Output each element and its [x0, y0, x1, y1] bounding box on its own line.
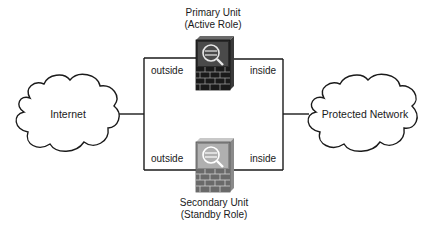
- primary-unit-role: (Active Role): [184, 19, 241, 31]
- secondary-firewall-icon: [196, 138, 234, 192]
- primary-unit-title: Primary Unit: [185, 7, 240, 19]
- primary-firewall-icon: [196, 36, 234, 90]
- secondary-outside-label: outside: [151, 153, 183, 165]
- secondary-unit-title: Secondary Unit: [180, 197, 248, 209]
- internet-label: Internet: [50, 108, 86, 120]
- primary-inside-label: inside: [250, 65, 276, 77]
- secondary-inside-label: inside: [250, 153, 276, 165]
- primary-outside-label: outside: [151, 65, 183, 77]
- protected-network-label: Protected Network: [322, 108, 408, 120]
- secondary-unit-role: (Standby Role): [181, 209, 248, 221]
